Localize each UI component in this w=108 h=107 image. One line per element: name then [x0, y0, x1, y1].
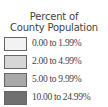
legend-title-line1: Percent of [0, 11, 108, 22]
legend-item: 10.00 to 24.99% [4, 91, 108, 105]
legend-label: 5.00 to 9.99% [32, 74, 81, 84]
legend-label: 2.00 to 4.99% [32, 56, 81, 66]
legend-item: 0.00 to 1.99% [4, 37, 108, 51]
legend-title-line2: County Population [0, 22, 108, 33]
legend-swatch [4, 73, 27, 87]
legend-item: 5.00 to 9.99% [4, 73, 108, 87]
legend-item: 2.00 to 4.99% [4, 55, 108, 69]
legend-swatch [4, 55, 27, 69]
legend-label: 0.00 to 1.99% [32, 38, 81, 48]
legend-swatch [4, 37, 27, 51]
legend-label: 10.00 to 24.99% [32, 92, 90, 102]
legend-swatch [4, 91, 27, 105]
